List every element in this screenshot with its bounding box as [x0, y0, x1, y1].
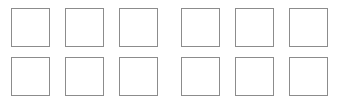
grid-cell[interactable] — [289, 57, 328, 96]
grid-cell[interactable] — [235, 57, 274, 96]
grid-cell[interactable] — [11, 57, 50, 96]
grid-cell[interactable] — [235, 8, 274, 47]
square-grid-panel — [0, 0, 349, 103]
grid-row — [0, 8, 349, 47]
grid-cell[interactable] — [65, 57, 104, 96]
grid-cell[interactable] — [119, 8, 158, 47]
grid-cell[interactable] — [65, 8, 104, 47]
grid-cell[interactable] — [181, 8, 220, 47]
grid-cell[interactable] — [11, 8, 50, 47]
grid-row — [0, 57, 349, 96]
grid-cell[interactable] — [289, 8, 328, 47]
grid-cell[interactable] — [181, 57, 220, 96]
grid-cell[interactable] — [119, 57, 158, 96]
